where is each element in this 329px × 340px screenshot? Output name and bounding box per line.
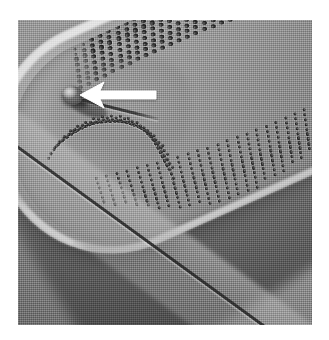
areola	[279, 150, 283, 154]
areola	[209, 160, 213, 164]
areola	[177, 160, 181, 164]
areola	[109, 52, 114, 57]
areola	[125, 169, 129, 173]
areola	[221, 167, 225, 171]
areola	[205, 187, 209, 191]
areola	[109, 114, 113, 118]
areola	[219, 21, 223, 25]
areola	[239, 155, 243, 159]
areola	[168, 24, 172, 28]
areola	[275, 125, 279, 129]
areola	[164, 194, 168, 198]
areola	[211, 24, 215, 28]
areola	[217, 194, 221, 198]
areola	[269, 149, 273, 153]
areola	[250, 156, 254, 160]
areola	[207, 151, 211, 155]
areola	[235, 187, 239, 191]
areola	[264, 177, 268, 181]
stria-row	[190, 20, 198, 35]
areola	[290, 160, 294, 164]
areola	[305, 123, 309, 127]
areola	[212, 175, 216, 179]
areola	[176, 196, 180, 200]
areola	[134, 40, 138, 44]
areola	[197, 200, 201, 204]
areola	[143, 41, 147, 45]
areola	[207, 197, 211, 201]
areola	[194, 186, 198, 190]
areola	[208, 156, 212, 160]
areola	[166, 199, 170, 203]
areola	[196, 149, 200, 153]
areola	[141, 20, 145, 23]
areola	[128, 178, 132, 182]
areola	[136, 171, 140, 175]
areola	[159, 175, 163, 179]
areola	[290, 155, 294, 159]
areola	[246, 137, 250, 141]
areola	[231, 168, 235, 172]
areola	[252, 171, 256, 175]
areola	[176, 155, 180, 159]
areola	[147, 168, 151, 172]
areola	[228, 20, 232, 22]
areola	[274, 121, 278, 125]
areola	[92, 117, 96, 121]
areola	[206, 146, 210, 150]
areola	[242, 169, 246, 173]
areola	[138, 176, 142, 180]
areola	[190, 171, 194, 175]
areola	[284, 117, 288, 121]
stria-row	[199, 20, 207, 32]
areola	[49, 151, 54, 156]
areola	[254, 180, 258, 184]
areola	[300, 156, 304, 160]
areola	[218, 199, 222, 203]
areola	[188, 162, 192, 166]
areola	[224, 181, 228, 185]
areola	[257, 143, 261, 147]
areola	[245, 132, 249, 136]
areola	[108, 46, 113, 51]
areola	[126, 49, 130, 53]
areola	[277, 140, 281, 144]
areola	[251, 161, 255, 165]
areola	[99, 39, 104, 44]
areola	[280, 154, 284, 158]
areola	[202, 178, 206, 182]
areola	[217, 148, 221, 152]
areola	[159, 22, 163, 26]
areola	[167, 203, 171, 207]
areola	[116, 31, 120, 35]
areola	[90, 43, 95, 48]
areola	[238, 150, 242, 154]
areola	[182, 179, 186, 183]
areola	[303, 113, 307, 117]
areola	[281, 164, 285, 168]
areola	[82, 42, 86, 46]
areola	[227, 144, 231, 148]
areola	[177, 32, 181, 36]
areola	[308, 147, 312, 151]
areola	[186, 198, 190, 202]
areola	[251, 166, 255, 170]
areola	[148, 173, 152, 177]
stria-row	[163, 20, 173, 46]
areola	[184, 188, 188, 192]
diatom-valve	[18, 20, 312, 325]
areola	[227, 195, 231, 199]
areola	[185, 34, 189, 38]
areola	[208, 202, 212, 206]
areola	[117, 42, 121, 46]
areola	[185, 23, 189, 27]
areola	[256, 133, 260, 137]
areola	[285, 126, 289, 130]
areola	[62, 134, 66, 138]
areola	[160, 39, 164, 43]
areola	[260, 157, 264, 161]
areola	[150, 26, 154, 30]
areola	[287, 141, 291, 145]
areola	[297, 137, 301, 141]
areola	[232, 173, 236, 177]
